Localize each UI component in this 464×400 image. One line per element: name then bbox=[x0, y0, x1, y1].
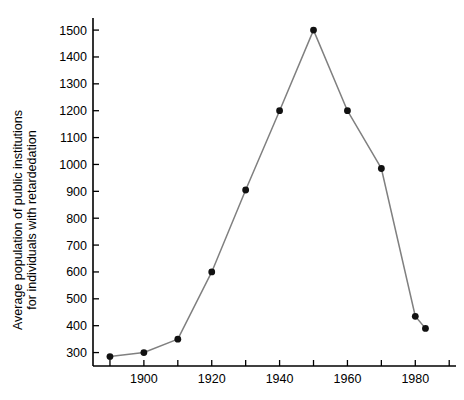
y-axis-tick-label: 1200 bbox=[59, 104, 87, 118]
y-axis-tick-label: 300 bbox=[66, 346, 87, 360]
data-point-marker bbox=[310, 27, 317, 34]
y-axis-tick-label: 500 bbox=[66, 292, 87, 306]
chart-figure: Average population of public institution… bbox=[0, 0, 464, 400]
data-point-marker bbox=[208, 269, 215, 276]
y-axis-tick-label: 1300 bbox=[59, 77, 87, 91]
x-axis-tick-label: 1920 bbox=[198, 372, 226, 386]
line-chart-canvas: Average population of public institution… bbox=[0, 0, 464, 400]
data-point-marker bbox=[422, 325, 429, 332]
x-axis-tick-label: 1960 bbox=[334, 372, 362, 386]
x-axis-tick-label: 1900 bbox=[130, 372, 158, 386]
x-axis-tick-label: 1940 bbox=[266, 372, 294, 386]
y-axis-tick-label: 600 bbox=[66, 265, 87, 279]
y-axis-tick-label: 1100 bbox=[60, 131, 87, 145]
y-axis-title: Average population of public institution… bbox=[11, 110, 39, 330]
y-axis-title-line-2: for individuals with retardedation bbox=[25, 130, 39, 309]
x-axis-tick-label: 1980 bbox=[401, 372, 429, 386]
y-axis-tick-label: 900 bbox=[66, 185, 87, 199]
data-point-marker bbox=[276, 107, 283, 114]
y-axis-title-line-1: Average population of public institution… bbox=[11, 110, 25, 330]
data-point-marker bbox=[242, 187, 249, 194]
data-point-marker bbox=[174, 336, 181, 343]
y-axis-tick-label: 800 bbox=[66, 212, 87, 226]
y-axis-tick-label: 1000 bbox=[59, 158, 87, 172]
cropped-caption-remnant bbox=[0, 396, 464, 400]
y-axis-tick-label: 700 bbox=[66, 239, 87, 253]
data-point-marker bbox=[344, 107, 351, 114]
y-axis-tick-label: 400 bbox=[66, 319, 87, 333]
y-axis-tick-label: 1400 bbox=[59, 50, 87, 64]
data-point-marker bbox=[140, 349, 147, 356]
y-axis-tick-label: 1500 bbox=[59, 24, 87, 38]
data-point-marker bbox=[412, 313, 419, 320]
data-point-marker bbox=[107, 353, 114, 360]
data-point-marker bbox=[378, 165, 385, 172]
